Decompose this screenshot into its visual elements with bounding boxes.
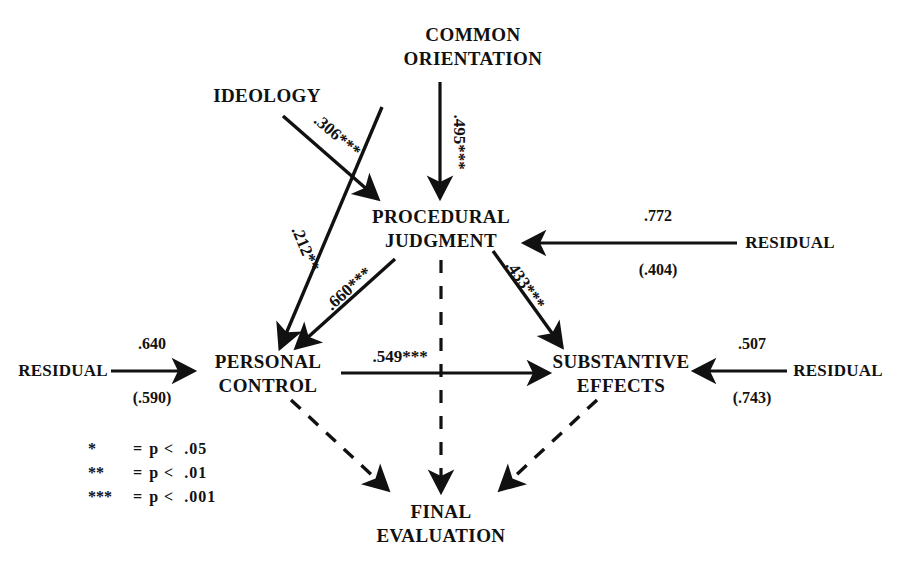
significance-legend: * = p < .05 ** = p < .01 *** = p < .001 — [88, 437, 220, 509]
legend-condition: p < .01 — [149, 461, 220, 485]
node-procedural-judgment: PROCEDURAL JUDGMENT — [372, 205, 510, 254]
node-residual-personal-control: RESIDUAL — [18, 360, 107, 382]
coef-residual-to-procedural-judgment: .772 (.404) — [639, 171, 678, 314]
arrow-personal-control-to-final-evaluation — [291, 400, 388, 490]
coef-residual-to-substantive-effects: .507 (.743) — [733, 299, 772, 442]
coef-residual-se-top: .507 — [733, 335, 772, 353]
node-personal-control: PERSONAL CONTROL — [215, 350, 322, 399]
coef-residual-pc-bottom: (.590) — [133, 389, 172, 407]
node-common-orientation: COMMON ORIENTATION — [404, 23, 543, 72]
coef-residual-pc-top: .640 — [133, 335, 172, 353]
path-diagram: COMMON ORIENTATION IDEOLOGY PROCEDURAL J… — [0, 0, 900, 564]
node-substantive-effects: SUBSTANTIVE EFFECTS — [552, 350, 689, 399]
arrow-substantive-effects-to-final-evaluation — [500, 400, 597, 490]
coef-residual-to-personal-control: .640 (.590) — [133, 299, 172, 442]
node-final-evaluation: FINAL EVALUATION — [377, 500, 506, 549]
node-residual-substantive-effects: RESIDUAL — [793, 360, 882, 382]
coef-residual-se-bottom: (.743) — [733, 389, 772, 407]
coef-common-orientation-to-procedural-judgment: .495*** — [449, 114, 469, 169]
legend-equals: = — [126, 461, 149, 485]
legend-row: * = p < .05 — [88, 437, 220, 461]
legend-row: *** = p < .001 — [88, 485, 220, 509]
legend-stars: *** — [88, 485, 126, 509]
legend-condition: p < .001 — [149, 485, 220, 509]
node-residual-procedural-judgment: RESIDUAL — [745, 232, 834, 254]
coef-residual-pj-bottom: (.404) — [639, 261, 678, 279]
legend-stars: ** — [88, 461, 126, 485]
coef-residual-pj-top: .772 — [639, 207, 678, 225]
legend-condition: p < .05 — [149, 437, 220, 461]
legend-equals: = — [126, 485, 149, 509]
legend-row: ** = p < .01 — [88, 461, 220, 485]
node-ideology: IDEOLOGY — [213, 84, 321, 108]
legend-equals: = — [126, 437, 149, 461]
legend-stars: * — [88, 437, 126, 461]
coef-personal-control-to-substantive-effects: .549*** — [372, 347, 427, 367]
